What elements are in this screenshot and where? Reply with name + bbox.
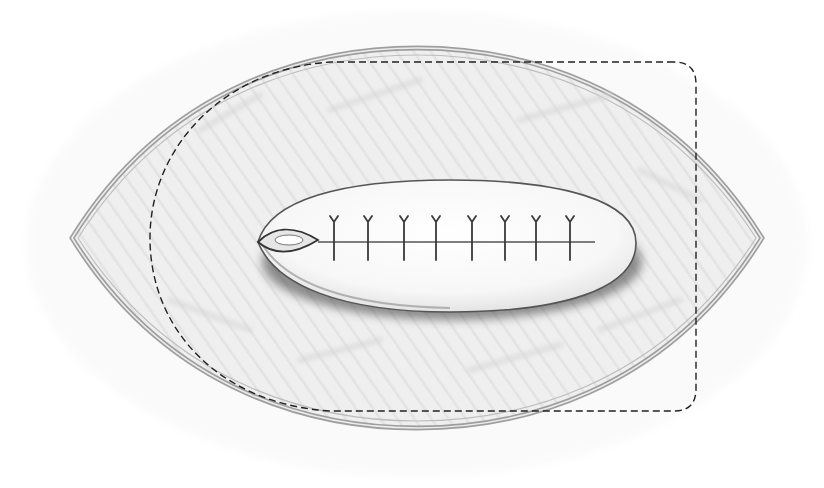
inner-tissue-island [258,180,636,312]
surgical-illustration [0,0,824,488]
illustration-stage [0,0,824,488]
